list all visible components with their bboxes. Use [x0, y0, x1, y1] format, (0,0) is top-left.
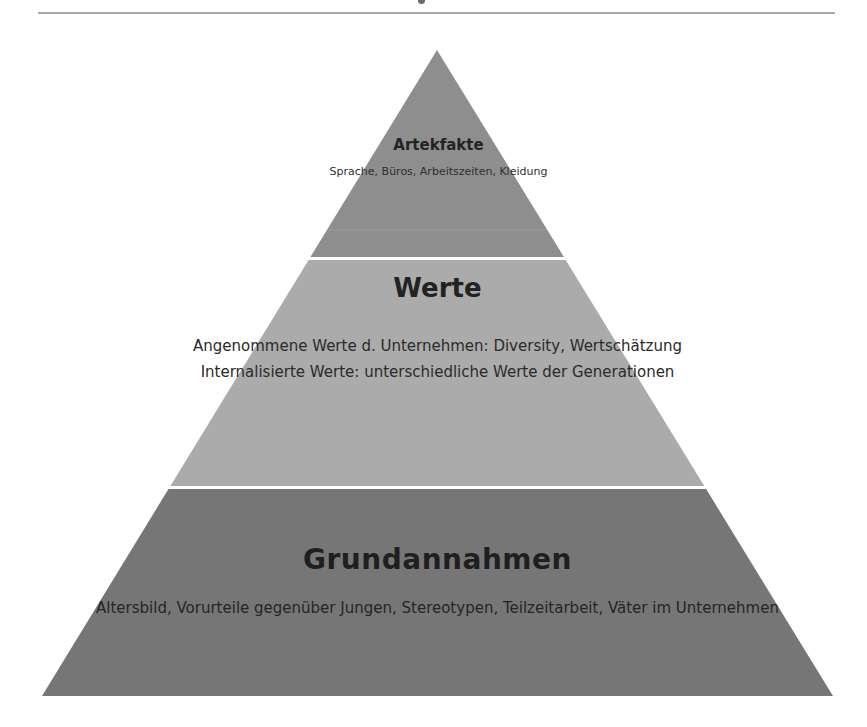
tier-title-artefacts: Artekfakte	[0, 136, 867, 154]
tier-title-values: Werte	[0, 273, 867, 303]
tier-body-line: Stereotypen, Teilzeitarbeit, Väter im Un…	[402, 599, 779, 617]
tier-body-line: Sprache,	[330, 165, 379, 178]
tier-body-line: Unternehmen: Diversity,	[380, 337, 564, 355]
tier-body-values: Angenommene Werte d. Unternehmen: Divers…	[0, 336, 867, 382]
tier-body-line: Kleidung	[499, 165, 547, 178]
tier-body-artefacts: Sprache, Büros, Arbeitszeiten, Kleidung	[0, 161, 867, 182]
tier-body-line: Generationen	[572, 363, 674, 381]
tier-paragraph-internalized-values: Internalisierte Werte: unterschiedliche …	[0, 362, 867, 382]
tier-body-line: unterschiedliche Werte der	[364, 363, 567, 381]
tier-title-basic-assumptions: Grundannahmen	[0, 543, 867, 576]
pyramid-tier-bottom	[42, 489, 833, 696]
tier-body-line: Altersbild, Vorurteile gegenüber Jungen,	[96, 599, 397, 617]
tier-body-line: Internalisierte Werte:	[201, 363, 360, 381]
tier-body-line: Wertschätzung	[570, 337, 682, 355]
tier-body-line: Büros, Arbeitszeiten,	[382, 165, 496, 178]
tier-body-line: Angenommene Werte d.	[193, 337, 376, 355]
tier-body-basic-assumptions: Altersbild, Vorurteile gegenüber Jungen,…	[0, 598, 867, 618]
tier-paragraph-espoused-values: Angenommene Werte d. Unternehmen: Divers…	[0, 336, 867, 356]
